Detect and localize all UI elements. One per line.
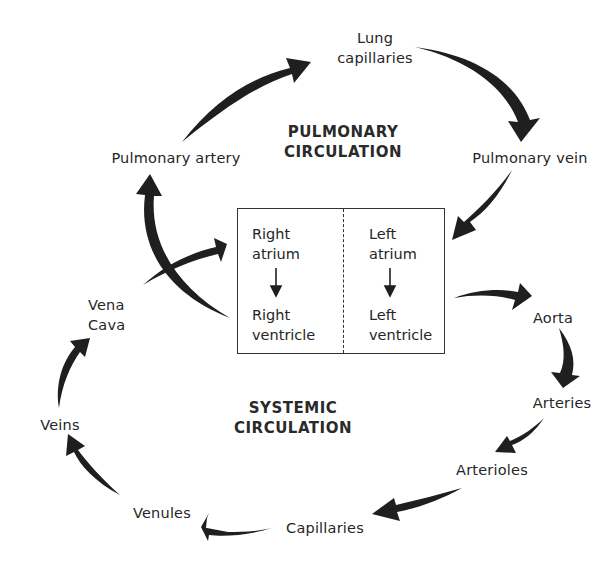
arrow-pulmonary-vein-to-left-atrium-icon [452,170,512,240]
pulmonary-vein-label: Pulmonary vein [455,148,605,168]
vena-cava-label: Vena Cava [88,295,148,335]
veins-label: Veins [30,415,90,435]
septum-divider [343,209,344,353]
right-ventricle-label: Right ventricle [252,305,315,345]
right-atrium-label: Right atrium [252,224,300,264]
pulmonary-circulation-title: PULMONARY CIRCULATION [258,122,428,162]
left-atrium-label: Left atrium [369,224,417,264]
arrow-arterioles-to-capillaries-icon [372,488,462,521]
arrow-venules-to-veins-icon [66,434,120,495]
aorta-label: Aorta [518,308,588,328]
arterioles-label: Arterioles [437,460,547,480]
pulmonary-artery-label: Pulmonary artery [96,148,256,168]
arteries-label: Arteries [512,393,612,413]
arrow-aorta-to-arteries-icon [551,328,580,388]
arrow-capillaries-to-venules-icon [201,513,272,541]
capillaries-label: Capillaries [270,518,380,538]
systemic-circulation-title: SYSTEMIC CIRCULATION [208,398,378,438]
arrow-arteries-to-arterioles-icon [495,418,544,453]
venules-label: Venules [122,503,202,523]
arrow-veins-to-vena-cava-icon [58,338,90,408]
circulation-diagram: Right atrium Right ventricle Left atrium… [0,0,616,574]
left-ventricle-label: Left ventricle [369,305,432,345]
arrow-left-ventricle-to-aorta-icon [454,283,532,310]
lung-capillaries-label: Lung capillaries [325,28,425,68]
arrow-lung-to-pulmonary-vein-icon [415,47,540,142]
